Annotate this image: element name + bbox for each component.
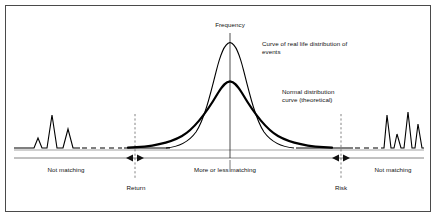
region-label-not-matching-left: Not matching (47, 166, 84, 174)
risk-arrow-left (332, 155, 339, 162)
marker-label-return: Return (127, 184, 146, 192)
left-noise-spikes (14, 115, 80, 148)
annotation-normal-curve: Normal distribution curve (theoretical) (282, 88, 335, 104)
risk-arrow-right (343, 155, 350, 162)
return-arrow-right (137, 155, 144, 162)
return-arrow-left (126, 155, 133, 162)
region-label-not-matching-right: Not matching (374, 166, 411, 174)
region-label-more-or-less-matching: More or less matching (194, 166, 256, 174)
chart-plot (0, 0, 438, 220)
axis-label-frequency: Frequency (215, 21, 245, 29)
right-noise-spikes (381, 112, 424, 148)
annotation-real-life-curve: Curve of real life distribution of event… (262, 40, 347, 56)
marker-label-risk: Risk (335, 184, 347, 192)
figure-container: Frequency Curve of real life distributio… (0, 0, 438, 220)
